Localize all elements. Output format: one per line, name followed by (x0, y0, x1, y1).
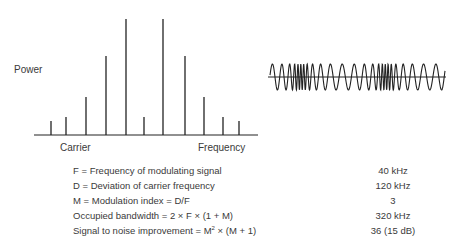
frequency-axis-label: Frequency (198, 142, 245, 153)
fm-waveform (268, 64, 446, 90)
power-axis-label: Power (14, 64, 42, 75)
param-label-d: D = Deviation of carrier frequency (73, 180, 215, 191)
param-value-f: 40 kHz (378, 165, 408, 176)
param-label-m: M = Modulation index = D/F (73, 195, 190, 206)
param-value-bandwidth: 320 kHz (376, 210, 411, 221)
snr-label-post: × (M + 1) (215, 225, 256, 236)
spectrum-plot (34, 19, 258, 135)
carrier-label: Carrier (60, 142, 91, 153)
param-value-m: 3 (390, 195, 395, 206)
param-label-f: F = Frequency of modulating signal (73, 165, 222, 176)
param-label-bandwidth: Occupied bandwidth = 2 × F × (1 + M) (73, 210, 233, 221)
param-value-snr: 36 (15 dB) (371, 225, 415, 236)
spectral-lines (51, 19, 239, 135)
snr-label-pre: Signal to noise improvement = M (73, 225, 212, 236)
param-label-snr: Signal to noise improvement = M2 × (M + … (73, 225, 256, 236)
param-value-d: 120 kHz (376, 180, 411, 191)
